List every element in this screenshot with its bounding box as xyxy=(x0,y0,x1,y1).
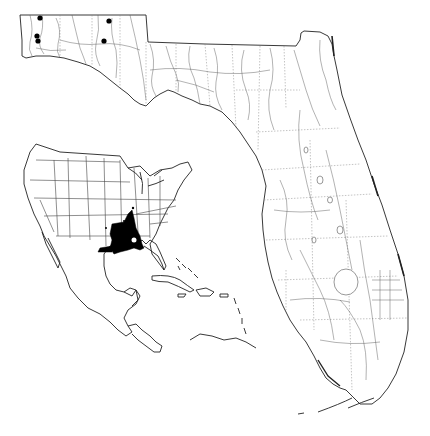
locality-dot xyxy=(106,18,111,23)
range-outlier-dot xyxy=(132,207,134,209)
map-canvas xyxy=(0,0,430,436)
locality-dot xyxy=(101,38,106,43)
range-gap xyxy=(132,238,137,243)
lake-okeechobee xyxy=(334,269,358,295)
jamaica xyxy=(178,294,186,297)
locality-dot xyxy=(35,38,40,43)
locality-dot xyxy=(37,15,42,20)
north-america-inset xyxy=(24,144,256,352)
puerto-rico xyxy=(220,294,228,297)
cuba xyxy=(152,276,194,293)
bahamas xyxy=(176,258,198,278)
key-fragment xyxy=(298,413,304,414)
range-outlier-dot xyxy=(123,220,125,222)
lesser-antilles xyxy=(234,298,246,334)
south-america-coast xyxy=(190,334,256,348)
distribution-map-figure xyxy=(0,0,430,436)
locality-dot xyxy=(34,33,39,38)
caribbean-islands xyxy=(152,258,246,334)
hispaniola xyxy=(196,288,214,296)
range-outlier-dot xyxy=(105,227,107,229)
